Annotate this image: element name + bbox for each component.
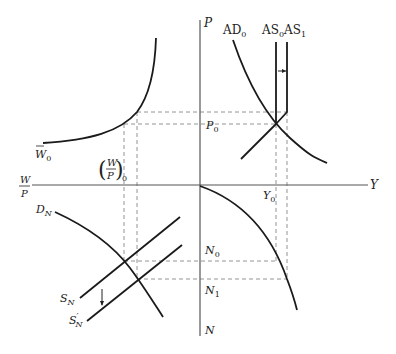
svg-text:AS1: AS1	[283, 23, 306, 39]
svg-text:P: P	[20, 188, 28, 199]
svg-text:Y0: Y0	[263, 189, 275, 204]
shift-arrow	[278, 69, 286, 73]
as1-label: AS1	[283, 23, 306, 39]
svg-text:SN: SN	[60, 292, 76, 307]
y0-label: Y0	[263, 189, 275, 204]
svg-text:AS0: AS0	[261, 23, 284, 39]
y-axis-label: Y	[370, 178, 379, 192]
svg-text:P: P	[106, 170, 114, 181]
svg-text:P0: P0	[205, 119, 219, 134]
svg-text:W: W	[20, 174, 31, 185]
p0-label: P0	[205, 119, 219, 134]
ad0-curve	[233, 40, 327, 163]
n-axis-label: N	[204, 324, 215, 337]
svg-text:S′N: S′N	[69, 312, 84, 329]
labor-shift-arrow	[100, 289, 104, 306]
svg-text:0: 0	[122, 174, 127, 183]
labor-supply-shifted-curve	[87, 245, 182, 321]
svg-text:N1: N1	[204, 284, 220, 299]
four-quadrant-diagram: P Y N W P AD0 AS0 AS1 P0 Y0 N0 N1 W0 ( W…	[0, 0, 396, 354]
dn-label: DN	[35, 203, 53, 218]
w0-label: W0	[35, 146, 51, 163]
short-run-supply-curve	[241, 124, 276, 159]
sn-prime-label: S′N	[69, 312, 84, 329]
wage-curve	[43, 38, 156, 143]
svg-text:AD0: AD0	[222, 23, 246, 39]
svg-text:N0: N0	[204, 244, 220, 259]
svg-text:W0: W0	[35, 148, 51, 163]
p-axis-label: P	[203, 16, 213, 30]
ad0-label: AD0	[222, 23, 246, 39]
svg-text:(: (	[98, 157, 107, 182]
svg-text:DN: DN	[35, 203, 53, 218]
sn-label: SN	[60, 292, 76, 307]
as0-label: AS0	[261, 23, 284, 39]
n1-label: N1	[204, 284, 220, 299]
n0-label: N0	[204, 244, 220, 259]
real-wage-axis-label: W P	[19, 174, 31, 199]
real-wage-0-label: ( W P ) 0	[98, 157, 127, 183]
